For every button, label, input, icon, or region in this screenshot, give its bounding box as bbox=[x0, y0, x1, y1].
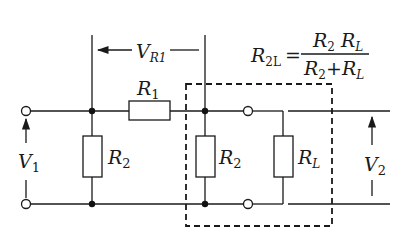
resistor-r2-right bbox=[196, 136, 215, 177]
formula-r2l: R2L = R2RL R2+RL bbox=[250, 29, 369, 82]
output-terminal-bottom bbox=[244, 200, 253, 209]
input-terminal-bottom bbox=[22, 200, 31, 209]
label-v-r1: VR1 bbox=[136, 40, 166, 65]
label-r2-right: R2 bbox=[218, 146, 242, 171]
formula-denominator: R2+RL bbox=[303, 57, 364, 82]
formula-equals: = bbox=[285, 44, 301, 66]
junction-node bbox=[202, 201, 208, 207]
label-rl: RL bbox=[297, 146, 320, 171]
label-v1: V1 bbox=[18, 150, 40, 175]
label-r1: R1 bbox=[136, 77, 160, 102]
output-terminal-top bbox=[244, 107, 253, 116]
input-terminal-top bbox=[22, 107, 31, 116]
formula-numerator: R2RL bbox=[312, 29, 363, 54]
junction-node bbox=[89, 201, 95, 207]
resistor-r2-right-branch bbox=[196, 111, 215, 204]
label-v2: V2 bbox=[364, 153, 386, 178]
resistor-r2-left bbox=[83, 136, 102, 177]
label-r2-left: R2 bbox=[107, 146, 131, 171]
resistor-r1 bbox=[129, 101, 170, 120]
formula-lhs: R2L bbox=[250, 44, 281, 69]
resistor-rl bbox=[274, 136, 293, 177]
circuit-diagram: R1 R2 R2 RL VR1 bbox=[0, 0, 404, 251]
resistor-r2-left-branch bbox=[83, 111, 102, 204]
resistor-rl-branch bbox=[274, 111, 293, 204]
